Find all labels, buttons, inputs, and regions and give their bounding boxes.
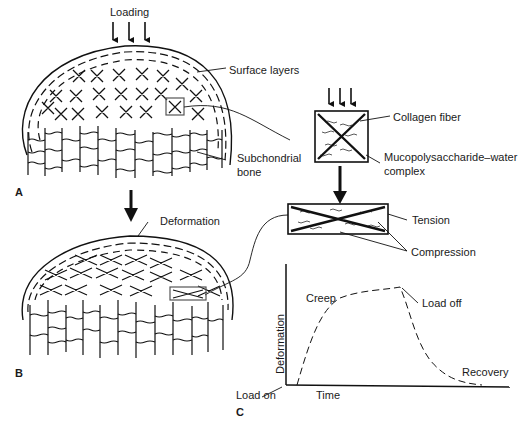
panel-a-label: A	[15, 186, 23, 198]
compression-arrows-icon	[329, 88, 351, 104]
tension-label: Tension	[412, 214, 450, 227]
recovery-label: Recovery	[462, 366, 508, 379]
cartilage-diagram: Loading Surface layers Subchondrial bone…	[0, 0, 526, 431]
loading-label: Loading	[110, 6, 149, 19]
panel-b-label: B	[15, 367, 23, 379]
time-label: Time	[316, 389, 340, 402]
bone-label: bone	[237, 166, 261, 179]
creep-label: Creep	[306, 292, 336, 305]
subchondrial-label: Subchondrial	[237, 152, 301, 165]
mps-label-2: complex	[384, 165, 425, 178]
panel-c-label: C	[236, 406, 244, 418]
deformation-label: Deformation	[160, 215, 220, 228]
collagen-fiber-label: Collagen fiber	[393, 111, 461, 124]
load-off-label: Load off	[422, 297, 462, 310]
mps-label: Mucopolysaccharide–water	[384, 151, 517, 164]
surface-layers-label: Surface layers	[229, 64, 299, 77]
compression-label: Compression	[411, 246, 476, 259]
y-axis-label: Deformation	[274, 314, 286, 374]
load-on-label: Load on	[236, 389, 276, 402]
loading-arrows-icon	[113, 22, 145, 40]
